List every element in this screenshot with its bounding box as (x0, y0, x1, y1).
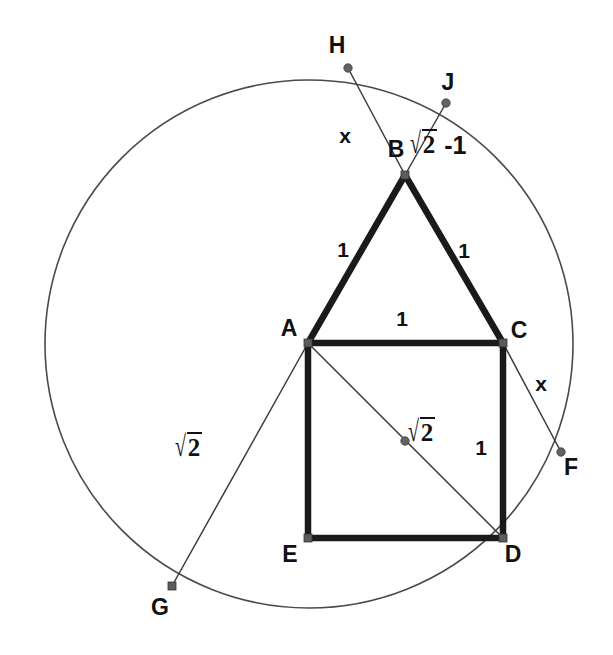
point-label-e: E (282, 541, 297, 567)
point-label-g: G (151, 594, 169, 620)
vertex-marker-h (344, 64, 352, 72)
label-sqrt2-minus-1-BJ: √2 -1 (410, 130, 466, 158)
figure-svg: ABCDEFGHJ x111x1 (0, 0, 613, 655)
edge-B-C (405, 175, 503, 343)
thick-edge-layer (308, 175, 503, 538)
point-label-b: B (388, 136, 405, 162)
length-label-layer: x111x1 (337, 124, 547, 459)
radical-sign-icon: √2 (408, 418, 435, 446)
vertex-marker-c (499, 339, 507, 347)
radical-suffix: -1 (437, 131, 466, 159)
vertex-marker-j (442, 99, 450, 107)
label-x-HB: x (339, 124, 351, 147)
chord-C-F (503, 343, 561, 452)
vertex-marker-g (168, 582, 176, 590)
label-sqrt2-AD: √2 (408, 418, 435, 446)
edge-A-B (308, 175, 405, 343)
vertex-marker-e (304, 534, 312, 542)
point-label-j: J (442, 69, 455, 95)
label-1-CD: 1 (475, 436, 487, 459)
label-1-AB: 1 (337, 238, 349, 261)
radical-sign-icon: √2 (410, 130, 437, 158)
point-label-h: H (329, 32, 346, 58)
point-label-d: D (505, 541, 522, 567)
label-x-CF: x (535, 372, 547, 395)
vertex-marker-b (401, 171, 409, 179)
geometry-figure: ABCDEFGHJ x111x1 √2 -1√2√2 (0, 0, 613, 655)
label-1-AC: 1 (396, 307, 408, 330)
point-label-c: C (511, 317, 528, 343)
label-sqrt2-AG: √2 (175, 433, 202, 461)
point-label-a: A (281, 315, 298, 341)
radical-sign-icon: √2 (175, 433, 202, 461)
label-1-BC: 1 (458, 239, 470, 262)
vertex-marker-a (304, 339, 312, 347)
point-label-layer: ABCDEFGHJ (151, 32, 578, 620)
point-label-f: F (564, 454, 578, 480)
